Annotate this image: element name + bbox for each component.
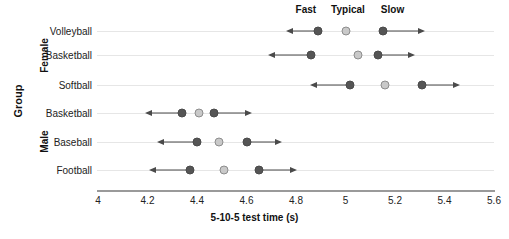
- column-header-typical: Typical: [331, 4, 365, 15]
- column-header-fast: Fast: [296, 4, 317, 15]
- data-point-typical: [215, 138, 224, 147]
- slow-arrow-head: [453, 82, 460, 88]
- x-tick-5.2: 5.2: [388, 195, 402, 206]
- data-point-fast: [314, 27, 323, 36]
- y-axis-label-football-male: Football: [0, 165, 92, 176]
- fast-arrow-head: [286, 28, 293, 34]
- y-axis-label-basketball-female: Basketball: [0, 50, 92, 61]
- y-axis-label-basketball-male: Basketball: [0, 108, 92, 119]
- x-tick-4.2: 4.2: [141, 195, 155, 206]
- x-axis-line: [97, 190, 495, 192]
- y-axis-label-volleyball-female: Volleyball: [0, 26, 92, 37]
- slow-arrow-head: [408, 52, 415, 58]
- data-point-typical: [220, 166, 229, 175]
- x-tick-5: 5: [343, 195, 349, 206]
- fast-arrow-head: [149, 167, 156, 173]
- column-header-slow: Slow: [381, 4, 404, 15]
- fast-arrow-head: [268, 52, 275, 58]
- data-point-slow: [210, 109, 219, 118]
- x-tick-4.6: 4.6: [240, 195, 254, 206]
- data-point-slow: [418, 81, 427, 90]
- x-axis-title: 5-10-5 test time (s): [0, 212, 509, 223]
- data-point-fast: [306, 51, 315, 60]
- slow-arrow-head: [245, 110, 252, 116]
- chart-container: Fast Typical Slow Group Female Male Voll…: [0, 0, 509, 239]
- data-point-fast: [346, 81, 355, 90]
- data-point-typical: [381, 81, 390, 90]
- slow-arrow-head: [290, 167, 297, 173]
- data-point-fast: [193, 138, 202, 147]
- plot-area: [98, 18, 494, 188]
- data-point-typical: [353, 51, 362, 60]
- data-point-fast: [185, 166, 194, 175]
- y-axis-label-baseball-male: Baseball: [0, 137, 92, 148]
- data-point-typical: [195, 109, 204, 118]
- data-point-slow: [378, 27, 387, 36]
- data-point-fast: [178, 109, 187, 118]
- data-point-slow: [242, 138, 251, 147]
- y-axis-label-softball-female: Softball: [0, 80, 92, 91]
- x-tick-4.4: 4.4: [190, 195, 204, 206]
- slow-arrow-line: [383, 31, 419, 32]
- slow-arrow-line: [259, 170, 290, 171]
- fast-arrow-head: [310, 82, 317, 88]
- x-tick-4: 4: [95, 195, 101, 206]
- x-tick-5.4: 5.4: [438, 195, 452, 206]
- x-tick-5.6: 5.6: [487, 195, 501, 206]
- data-point-slow: [254, 166, 263, 175]
- x-tick-4.8: 4.8: [289, 195, 303, 206]
- fast-arrow-head: [145, 110, 152, 116]
- slow-arrow-head: [418, 28, 425, 34]
- data-point-typical: [341, 27, 350, 36]
- fast-arrow-head: [157, 139, 164, 145]
- slow-arrow-line: [214, 113, 245, 114]
- slow-arrow-line: [422, 85, 453, 86]
- slow-arrow-head: [275, 139, 282, 145]
- data-point-slow: [373, 51, 382, 60]
- slow-arrow-line: [378, 55, 409, 56]
